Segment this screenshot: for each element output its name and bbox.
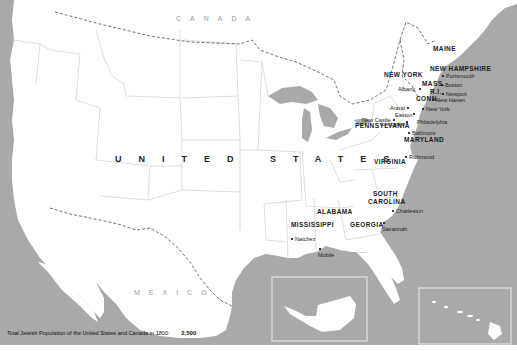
label-baltimore: Baltimore [412, 130, 436, 136]
label-alabama: ALABAMA [317, 208, 353, 215]
label-georgia: GEORGIA [350, 221, 384, 228]
label-mexico: MEXICO [134, 289, 216, 296]
population-caption: Total Jewish Population of the United St… [7, 330, 196, 336]
label-new-york: NEW YORK [384, 71, 423, 78]
label-carolina: CAROLINA [368, 198, 406, 205]
label-mobile: Mobile [318, 252, 334, 258]
label-portsmouth: Portsmouth [446, 73, 475, 79]
label-boston: Boston [445, 82, 462, 88]
label-maine: MAINE [433, 45, 456, 52]
label-charleston: Charleston [396, 208, 423, 214]
total-population: 2,500 [181, 330, 196, 336]
label-maryland: MARYLAND [404, 136, 444, 143]
label-mass: MASS. [422, 80, 445, 87]
label-virginia: VIRGINIA [374, 158, 406, 165]
label-canada: CANADA [176, 15, 259, 22]
label-savannah: Savannah [382, 226, 407, 232]
label-new-haven: New Haven [436, 97, 465, 103]
label-philadelphia: Philadelphia [417, 119, 447, 125]
label-mississippi: MISSISSIPPI [291, 221, 334, 228]
label-albany: Albany [398, 86, 415, 92]
label-easton: Easton [395, 112, 412, 118]
label-new-hampshire: NEW HAMPSHIRE [430, 65, 491, 72]
label-new-york-city: New York [426, 106, 450, 112]
label-south: SOUTH [373, 190, 398, 197]
label-richmond: Richmond [409, 154, 434, 160]
label-ararat: Ararat [390, 105, 405, 111]
label-ri: R.I. [430, 88, 442, 95]
label-natchez: Natchez [295, 236, 316, 242]
label-united-states: UNITED STATES [115, 154, 406, 164]
caption-text: Total Jewish Population of the United St… [7, 330, 170, 336]
label-new-castle: New Castle [362, 117, 391, 123]
